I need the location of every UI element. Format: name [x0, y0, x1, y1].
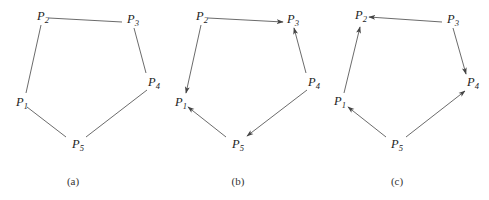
vertex-label-p4: P4 — [147, 75, 161, 91]
edge-p5-p1 — [27, 107, 66, 137]
edge-p4-p5 — [86, 90, 147, 137]
arrow-p2-p3 — [208, 18, 283, 22]
vertex-label-p2: P2 — [195, 9, 209, 25]
panel-b: P1P2P3P4P5(b) — [174, 9, 321, 188]
edge-p2-p3 — [49, 18, 122, 22]
panel-a: P1P2P3P4P5(a) — [15, 9, 161, 188]
vertex-label-p4: P4 — [466, 75, 480, 91]
arrow-p5-p1 — [188, 107, 226, 137]
arrow-p3-p2 — [369, 17, 442, 22]
vertex-label-p5: P5 — [71, 137, 84, 153]
vertex-label-p3: P3 — [286, 12, 299, 28]
edge-p3-p4 — [134, 28, 146, 73]
arrow-p1-p2 — [344, 27, 360, 93]
panel-caption: (b) — [232, 175, 245, 188]
vertex-label-p2: P2 — [36, 9, 50, 25]
arrow-p5-p4 — [406, 91, 465, 137]
vertex-label-p1: P1 — [15, 95, 28, 111]
arrow-p5-p1 — [348, 107, 386, 137]
edge-p1-p2 — [26, 25, 41, 93]
vertex-label-p3: P3 — [126, 12, 139, 28]
pentagon-diagram-figure: P1P2P3P4P5(a)P1P2P3P4P5(b)P1P2P3P4P5(c) — [0, 0, 489, 200]
vertex-label-p4: P4 — [307, 75, 321, 91]
vertex-label-p2: P2 — [354, 8, 368, 24]
arrow-p2-p1 — [186, 25, 201, 93]
arrow-p4-p5 — [247, 90, 307, 136]
panel-c: P1P2P3P4P5(c) — [333, 8, 480, 188]
arrow-p3-p4 — [453, 28, 466, 74]
vertex-label-p3: P3 — [446, 12, 459, 28]
vertex-label-p5: P5 — [390, 137, 403, 153]
arrow-p4-p3 — [294, 28, 306, 73]
panel-caption: (a) — [67, 175, 80, 188]
vertex-label-p5: P5 — [231, 137, 244, 153]
vertex-label-p1: P1 — [174, 95, 187, 111]
panel-caption: (c) — [391, 175, 404, 188]
vertex-label-p1: P1 — [333, 94, 346, 110]
